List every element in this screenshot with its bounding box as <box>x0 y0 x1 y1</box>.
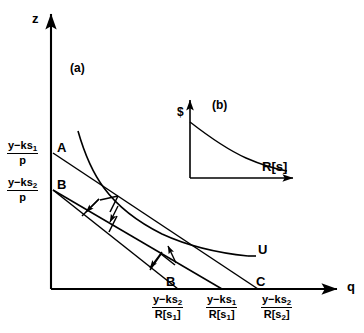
inset-curve-label: R[s] <box>262 160 287 173</box>
x-intercept-2-numerator: y−ks1 <box>206 294 237 308</box>
y-intercept-label-1: y−ks1 p <box>7 140 38 167</box>
arrow-lower-left <box>150 252 162 268</box>
budget-line-B-flat <box>53 190 222 289</box>
point-label-b-upper: B <box>57 178 66 191</box>
budget-line-A-C <box>53 153 258 289</box>
y-intercept-1-numerator: y−ks1 <box>7 140 38 154</box>
x-intercept-2-denominator: R[s1] <box>206 308 237 321</box>
x-intercept-3-numerator: y−ks2 <box>261 294 292 308</box>
y-intercept-2-numerator: y−ks2 <box>7 177 38 191</box>
z-axis-label: z <box>32 12 39 25</box>
q-axis-label: q <box>347 280 355 293</box>
x-intercept-label-1: y−ks2 R[s1] <box>152 294 183 321</box>
indifference-curve-U <box>78 131 248 256</box>
budget-line-B-steep <box>53 190 178 289</box>
inset-y-axis-label: $ <box>177 106 184 118</box>
arrow-upper-left <box>86 199 99 212</box>
band-tick-2 <box>100 196 118 200</box>
figure-container: z q (a) A B B C U y−ks1 p y−ks2 p y−ks2 … <box>0 0 364 333</box>
x-intercept-label-3: y−ks2 R[s2] <box>261 294 292 321</box>
budget-lines <box>53 153 258 289</box>
panel-a-axes <box>51 14 337 289</box>
point-label-c: C <box>256 275 265 288</box>
y-intercept-label-2: y−ks2 p <box>7 177 38 204</box>
x-intercept-1-numerator: y−ks2 <box>152 294 183 308</box>
panel-b-tag: (b) <box>212 99 227 111</box>
x-intercept-1-denominator: R[s1] <box>152 308 183 321</box>
panel-a-tag: (a) <box>70 62 85 74</box>
indifference-curve-label: U <box>258 243 267 256</box>
y-intercept-2-denominator: p <box>7 191 38 204</box>
figure-drawing <box>0 0 364 333</box>
point-label-a: A <box>57 141 66 154</box>
x-intercept-3-denominator: R[s2] <box>261 308 292 321</box>
x-intercept-label-2: y−ks1 R[s1] <box>206 294 237 321</box>
point-label-b-lower: B <box>166 275 175 288</box>
y-intercept-1-denominator: p <box>7 154 38 167</box>
